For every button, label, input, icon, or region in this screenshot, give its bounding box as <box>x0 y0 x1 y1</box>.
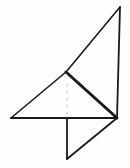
canvas-background <box>0 0 130 168</box>
figure-canvas <box>0 0 130 168</box>
line-drawing-svg <box>0 0 130 168</box>
